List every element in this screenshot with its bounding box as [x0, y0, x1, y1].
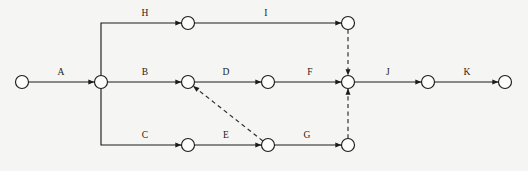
node-n4[interactable] [342, 17, 355, 30]
edge-J-arrowhead [415, 80, 421, 85]
edge-A-arrowhead [88, 80, 94, 85]
edge-B-arrowhead [175, 80, 181, 85]
network-diagram-canvas: AHIBDFJKCEG [0, 0, 528, 171]
edge-C-arrowhead [175, 143, 181, 148]
edge-label-D: D [222, 67, 229, 77]
node-n10[interactable] [182, 139, 195, 152]
edge-I-arrowhead [335, 21, 341, 26]
edge-label-A: A [57, 67, 64, 77]
node-n12[interactable] [342, 139, 355, 152]
node-n2[interactable] [95, 76, 108, 89]
edge-D-arrowhead [255, 80, 261, 85]
edge-label-I: I [264, 8, 267, 18]
edge-label-J: J [386, 67, 390, 77]
node-n1[interactable] [16, 76, 29, 89]
edge-label-G: G [303, 130, 310, 140]
node-n6[interactable] [262, 76, 275, 89]
edge-H-arrowhead [175, 21, 181, 26]
node-n3[interactable] [182, 17, 195, 30]
edge-label-B: B [142, 67, 149, 77]
node-n9[interactable] [499, 76, 512, 89]
node-n5[interactable] [182, 76, 195, 89]
edge-e-dummy-1-arrowhead [193, 86, 199, 92]
edge-E-arrowhead [255, 143, 261, 148]
edge-F-arrowhead [335, 80, 341, 85]
nodes-layer [16, 17, 512, 152]
node-n8[interactable] [422, 76, 435, 89]
node-n11[interactable] [262, 139, 275, 152]
edge-e-dummy-3-arrowhead [346, 89, 351, 95]
edge-label-K: K [463, 67, 470, 77]
network-diagram: AHIBDFJKCEG [0, 0, 528, 171]
edge-G-arrowhead [335, 143, 341, 148]
edge-K-arrowhead [492, 80, 498, 85]
edge-label-C: C [142, 130, 149, 140]
arrowheads-layer [88, 21, 498, 148]
edge-label-E: E [223, 130, 229, 140]
edge-label-F: F [307, 67, 312, 77]
edge-labels-layer: AHIBDFJKCEG [57, 8, 470, 140]
edge-e-dummy-2-arrowhead [346, 69, 351, 75]
edge-label-H: H [141, 8, 148, 18]
node-n7[interactable] [342, 76, 355, 89]
